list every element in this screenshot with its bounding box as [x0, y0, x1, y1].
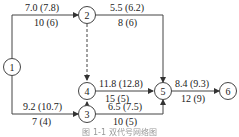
svg-text:6: 6 [226, 86, 231, 97]
svg-text:4: 4 [85, 86, 90, 97]
node-5: 5 [155, 83, 172, 100]
edge-4-5-bottom: 15 (5) [105, 94, 129, 104]
edge-5-6-top: 8.4 (9.3) [175, 79, 209, 89]
node-4: 4 [79, 83, 96, 100]
edge-1-3-top: 9.2 (10.7) [23, 102, 62, 112]
svg-text:3: 3 [85, 109, 90, 120]
network-diagram: 1 2 3 4 5 6 7.0 (7.8) 10 (6) 5.5 (6.2) 8… [0, 0, 239, 137]
edge-2-5-bottom: 8 (6) [118, 18, 137, 28]
node-2: 2 [79, 7, 96, 24]
edge-1-2-bottom: 10 (6) [34, 18, 58, 28]
node-3: 3 [79, 106, 96, 123]
svg-text:5: 5 [161, 86, 166, 97]
edge-1-2-top: 7.0 (7.8) [25, 3, 59, 13]
edge-2-5-top: 5.5 (6.2) [110, 3, 144, 13]
edge-4-5-top: 11.8 (12.8) [99, 79, 143, 89]
edge-5-6-bottom: 12 (9) [181, 94, 205, 104]
node-1: 1 [4, 59, 21, 76]
svg-text:1: 1 [10, 62, 15, 73]
node-6: 6 [220, 83, 237, 100]
figure-caption: 图 1-1 双代号网络图 [0, 126, 239, 137]
svg-text:2: 2 [85, 10, 90, 21]
